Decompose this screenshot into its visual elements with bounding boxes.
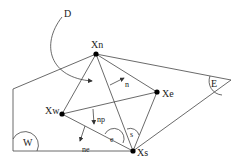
label-xw: Xw (45, 105, 60, 116)
label-d: D (64, 8, 71, 19)
label-n: n (125, 80, 129, 89)
vector-ne-icon (80, 126, 85, 141)
label-e-region: E (211, 78, 217, 89)
node-xe (154, 89, 159, 94)
node-xw (59, 111, 64, 116)
vector-np-icon (93, 109, 94, 124)
label-angle-s: s (130, 130, 133, 139)
label-ne: ne (82, 145, 90, 154)
label-np: np (97, 115, 105, 124)
label-angle-e: e (110, 135, 114, 144)
label-xe: Xe (162, 88, 174, 99)
node-xn (93, 51, 98, 56)
labels: D Xn Xw Xe Xs E W n np ne s e (23, 8, 217, 158)
label-xn: Xn (91, 39, 103, 50)
label-w-region: W (23, 137, 33, 148)
finite-volume-diagram: D Xn Xw Xe Xs E W n np ne s e (0, 0, 243, 164)
node-xs (130, 148, 135, 153)
label-xs: Xs (137, 147, 148, 158)
vector-n-icon (110, 78, 124, 85)
outer-boundary (13, 54, 231, 151)
angle-arc-e (105, 128, 124, 143)
